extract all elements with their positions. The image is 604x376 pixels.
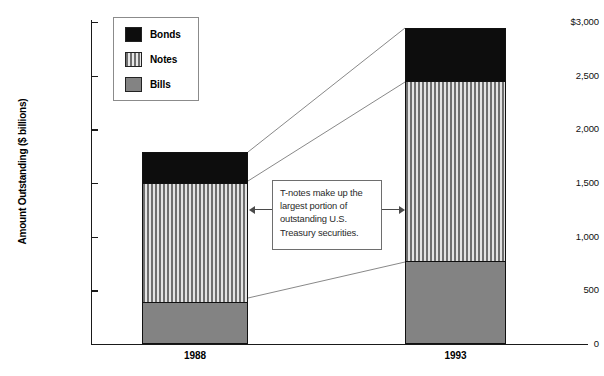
y-tick-label-2000: 2,000 (518, 123, 604, 134)
y-tick-label-0: 0 (518, 338, 604, 349)
annotation-arrow-right-shaft (382, 209, 400, 210)
y-tick-label-500: 500 (518, 284, 604, 295)
bar-1988-segment-bills[interactable] (142, 303, 248, 344)
annotation-text: T-notes make up the largest portion of o… (280, 186, 375, 239)
legend-label-bonds: Bonds (150, 29, 181, 40)
legend-item-notes[interactable]: Notes (125, 52, 177, 67)
y-tick-1500 (91, 183, 98, 184)
y-tick-3000 (91, 22, 98, 23)
chart-canvas: Amount Outstanding ($ billions) $3,000 2… (0, 0, 604, 376)
y-tick-0 (91, 344, 98, 345)
bar-1993-segment-bonds[interactable] (405, 28, 506, 82)
legend-swatch-notes-icon (125, 52, 142, 67)
annotation-arrow-right-head-icon (399, 206, 405, 214)
bar-1993[interactable] (405, 28, 506, 344)
bar-1993-segment-notes[interactable] (405, 82, 506, 262)
annotation-arrow-left-head-icon (249, 206, 255, 214)
y-tick-2000 (91, 129, 98, 130)
legend-item-bills[interactable]: Bills (125, 77, 171, 92)
y-tick-label-1500: 1,500 (518, 177, 604, 188)
legend-item-bonds[interactable]: Bonds (125, 27, 181, 42)
y-tick-2500 (91, 76, 98, 77)
legend: Bonds Notes Bills (113, 17, 199, 101)
bar-1988-segment-bonds[interactable] (142, 152, 248, 184)
bar-1988-segment-notes[interactable] (142, 184, 248, 303)
annotation-box: T-notes make up the largest portion of o… (272, 180, 382, 250)
bar-1988[interactable] (142, 152, 248, 344)
x-axis-label-1993: 1993 (405, 350, 506, 361)
legend-label-notes: Notes (150, 54, 177, 65)
y-tick-1000 (91, 237, 98, 238)
legend-swatch-bonds-icon (125, 27, 142, 42)
y-tick-label-1000: 1,000 (518, 231, 604, 242)
legend-swatch-bills-icon (125, 77, 142, 92)
x-axis-line (91, 344, 588, 345)
annotation-arrow-left-shaft (255, 209, 273, 210)
y-axis-title: Amount Outstanding ($ billions) (17, 72, 28, 272)
bar-1993-segment-bills[interactable] (405, 262, 506, 344)
y-tick-label-2500: 2,500 (518, 70, 604, 81)
y-tick-500 (91, 290, 98, 291)
y-tick-label-3000: $3,000 (518, 16, 604, 27)
legend-label-bills: Bills (150, 79, 171, 90)
x-axis-label-1988: 1988 (142, 350, 248, 361)
